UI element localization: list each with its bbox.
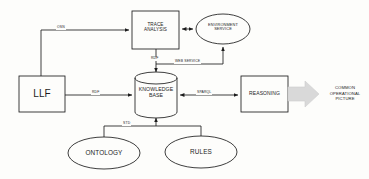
node-rules-shape — [165, 136, 237, 168]
node-knowledge-base-top — [135, 72, 177, 84]
edge-ontology-rules-bracket — [104, 126, 201, 137]
node-ontology-shape — [68, 137, 140, 169]
node-environment-service-shape — [196, 14, 250, 44]
edge-label-rdf-llf: RDF — [91, 91, 100, 95]
edge-label-web-service: WEB SERVICE — [174, 60, 201, 64]
edge-llf-to-trace-line — [41, 30, 129, 76]
node-llf-shape — [19, 76, 65, 112]
edge-label-sparql: SPARQL — [196, 91, 212, 95]
node-trace-analysis-shape — [132, 11, 179, 49]
diagram-canvas: LLF TRACE ANALYSIS ENVIRONMENT SERVICE K… — [0, 0, 369, 179]
edge-reasoning-to-cop-block-arrow — [288, 81, 319, 107]
node-reasoning-shape — [241, 76, 288, 112]
edge-label-osn: OSN — [56, 26, 66, 30]
edge-label-rdf-trace: RDF — [150, 57, 159, 61]
edge-label-std: STD — [122, 122, 131, 126]
